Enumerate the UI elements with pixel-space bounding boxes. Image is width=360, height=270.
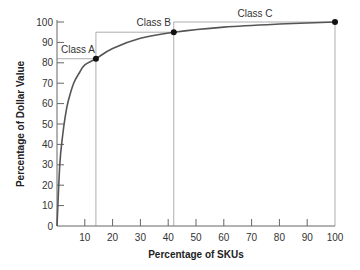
y-tick-label: 100 [36, 17, 53, 28]
x-tick-label: 50 [190, 232, 202, 243]
y-tick-label: 0 [47, 221, 53, 232]
labels: Percentage of SKUsPercentage of Dollar V… [15, 8, 273, 260]
y-tick-label: 10 [42, 200, 54, 211]
x-tick-label: 30 [135, 232, 147, 243]
y-tick-label: 60 [42, 98, 54, 109]
y-tick-label: 70 [42, 78, 54, 89]
y-axis-title: Percentage of Dollar Value [15, 60, 26, 187]
y-tick-label: 30 [42, 159, 54, 170]
x-tick-label: 60 [218, 232, 230, 243]
class-guide-lines [57, 22, 335, 226]
x-tick-label: 10 [79, 232, 91, 243]
y-tick-label: 40 [42, 139, 54, 150]
cumulative-curve [57, 22, 335, 226]
class-a-label: Class A [61, 44, 95, 55]
abc-analysis-chart: 0102030405060708090100102030405060708090… [0, 0, 360, 270]
class-b-point [171, 29, 177, 35]
x-tick-label: 40 [163, 232, 175, 243]
x-tick-label: 80 [274, 232, 286, 243]
class-b-label: Class B [137, 17, 172, 28]
class-c-label: Class C [237, 8, 272, 19]
x-tick-label: 100 [327, 232, 344, 243]
y-tick-label: 80 [42, 57, 54, 68]
x-tick-label: 90 [302, 232, 314, 243]
x-tick-label: 20 [107, 232, 119, 243]
class-points [93, 19, 338, 62]
y-tick-label: 20 [42, 180, 54, 191]
y-tick-label: 50 [42, 119, 54, 130]
class-c-point [332, 19, 338, 25]
abc-curve-line [57, 22, 335, 226]
x-axis-title: Percentage of SKUs [148, 249, 244, 260]
class-a-point [93, 56, 99, 62]
x-tick-label: 70 [246, 232, 258, 243]
y-tick-label: 90 [42, 37, 54, 48]
